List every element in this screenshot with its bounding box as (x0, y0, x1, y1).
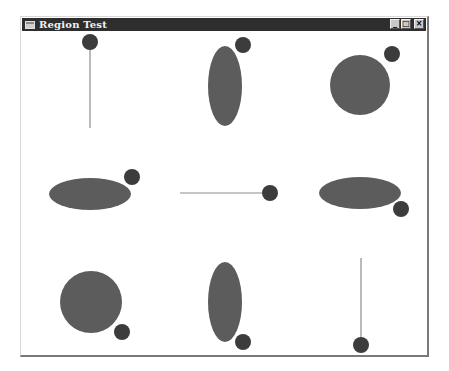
cell-7-region (60, 271, 130, 340)
circle-shape (60, 271, 122, 333)
ellipse-shape (208, 46, 242, 126)
handle-dot (235, 37, 251, 53)
handle-dot (262, 185, 278, 201)
cell-8-region (208, 262, 251, 350)
handle-dot (114, 324, 130, 340)
handle-dot (353, 337, 369, 353)
cell-9-region (353, 258, 369, 353)
cell-1-region (82, 34, 98, 128)
cell-2-region (208, 37, 251, 126)
handle-dot (384, 46, 400, 62)
handle-dot (124, 169, 140, 185)
drawing-canvas (0, 0, 449, 371)
ellipse-shape (208, 262, 242, 342)
cell-6-region (319, 177, 409, 217)
handle-dot (393, 201, 409, 217)
ellipse-shape (49, 178, 131, 210)
circle-shape (330, 55, 390, 115)
handle-dot (235, 334, 251, 350)
handle-dot (82, 34, 98, 50)
cell-5-region (180, 185, 278, 201)
cell-4-region (49, 169, 140, 210)
ellipse-shape (319, 177, 401, 209)
cell-3-region (330, 46, 400, 115)
